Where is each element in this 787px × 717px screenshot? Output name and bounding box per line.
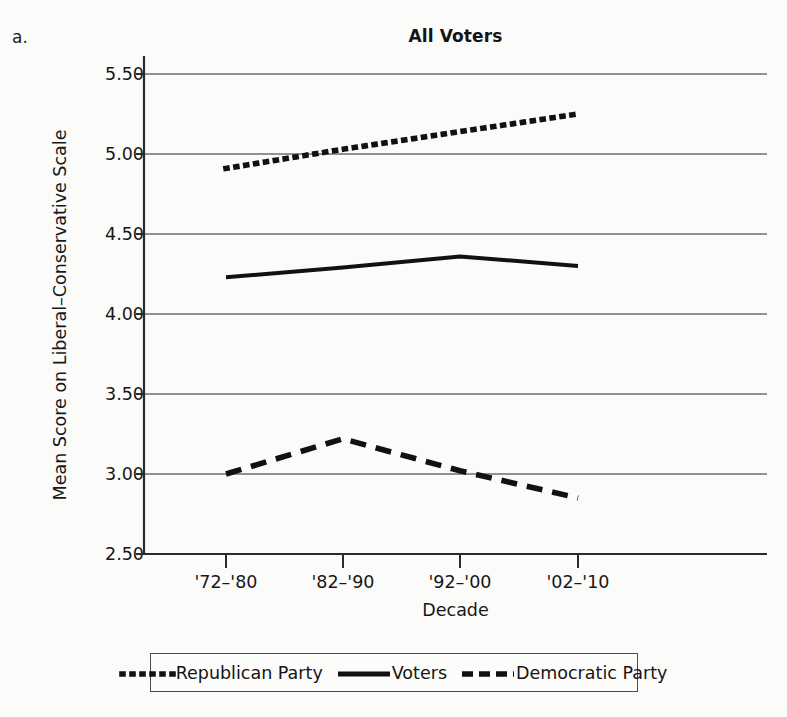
legend-label: Democratic Party (516, 663, 667, 683)
legend-label: Voters (392, 663, 447, 683)
x-tick-label: '82–'90 (312, 572, 375, 592)
series-line-voters (226, 256, 578, 277)
x-tick-marks (226, 554, 578, 568)
chart-legend: Republican Party Voters Democratic Party (150, 653, 638, 692)
legend-item-republican-party: Republican Party (114, 663, 330, 683)
x-axis-label: Decade (144, 600, 767, 620)
series-line-democratic-party (226, 439, 578, 498)
legend-label: Republican Party (176, 663, 323, 683)
figure-panel-a: a. All Voters Mean Score on Liberal–Cons… (0, 0, 787, 717)
legend-item-voters: Voters (330, 663, 454, 683)
legend-swatch-dotted-icon (121, 670, 175, 675)
gridlines (144, 74, 767, 554)
legend-swatch-solid-icon (337, 670, 391, 675)
legend-swatch-dashed-icon (461, 670, 515, 675)
x-tick-label: '92–'00 (429, 572, 492, 592)
series-line-republican-party (226, 114, 578, 168)
y-tick-marks (136, 74, 144, 554)
legend-item-democratic-party: Democratic Party (454, 663, 674, 683)
x-tick-label: '02–'10 (547, 572, 610, 592)
x-tick-label: '72–'80 (195, 572, 258, 592)
